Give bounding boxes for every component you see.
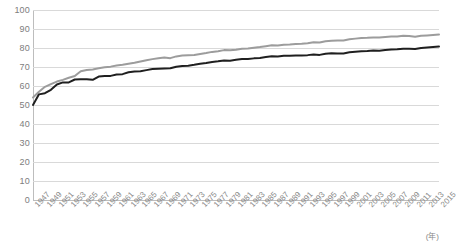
- plot-area: [33, 10, 439, 200]
- y-axis-tick-label: 80: [2, 43, 30, 53]
- line-series-male: [33, 47, 439, 105]
- y-axis-tick-label: 30: [2, 138, 30, 148]
- x-axis-labels: (年) 194719491951195319551957195919611963…: [33, 201, 439, 243]
- x-axis-unit-label: (年): [426, 230, 439, 241]
- y-axis-tick-label: 70: [2, 62, 30, 72]
- y-axis-tick-label: 0: [2, 195, 30, 205]
- y-axis-labels: 1009080706050403020100: [0, 10, 30, 200]
- y-axis-tick-label: 60: [2, 81, 30, 91]
- y-axis-tick-label: 40: [2, 119, 30, 129]
- y-axis-tick-label: 90: [2, 24, 30, 34]
- y-axis-tick-label: 10: [2, 176, 30, 186]
- y-axis-tick-label: 50: [2, 100, 30, 110]
- y-axis-tick-label: 20: [2, 157, 30, 167]
- series-lines: [33, 10, 439, 200]
- y-axis-tick-label: 100: [2, 5, 30, 15]
- line-series-female: [33, 35, 439, 98]
